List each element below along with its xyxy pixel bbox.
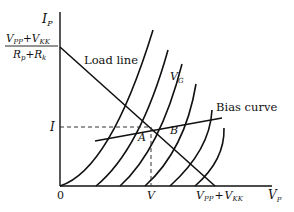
characteristic-curve — [195, 128, 224, 186]
load-line-diagram: IP VPP+VKK Rp+Rk Load line VG Bias curve… — [0, 0, 294, 212]
y-intercept-label: VPP+VKK Rp+Rk — [5, 32, 58, 62]
vg-label: VG — [170, 70, 184, 85]
y-axis-label: IP — [41, 11, 53, 28]
operating-current-label: I — [49, 120, 55, 134]
svg-text:Rp+Rk: Rp+Rk — [12, 48, 46, 62]
load-line — [60, 47, 215, 186]
origin-label: 0 — [57, 189, 64, 202]
characteristic-curve — [96, 50, 168, 186]
load-line-label: Load line — [84, 53, 138, 67]
point-b-label: B — [169, 124, 178, 137]
x-axis-label: VP — [268, 188, 282, 204]
point-a-label: A — [137, 131, 146, 144]
x-intercept-label: VPP+VKK — [196, 189, 244, 203]
operating-voltage-label: V — [147, 189, 156, 202]
bias-curve-label: Bias curve — [216, 100, 277, 114]
svg-text:VPP+VKK: VPP+VKK — [6, 32, 51, 46]
